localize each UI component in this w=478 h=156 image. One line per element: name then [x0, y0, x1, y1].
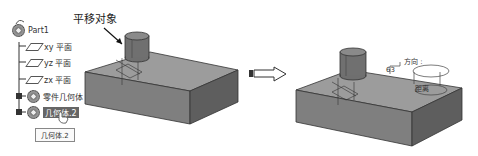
box-solid — [85, 52, 238, 124]
tooltip: 几何体.2 — [35, 128, 75, 142]
plane-icon — [25, 59, 44, 67]
plane-icon — [25, 43, 44, 51]
tree-item-label: xy 平面 — [44, 41, 72, 52]
tree-item-label: 零件几何体 — [43, 91, 83, 102]
box-solid — [296, 70, 462, 146]
tree-node-part-body[interactable]: 零件几何体 — [27, 90, 83, 103]
callout-arrow-icon — [104, 28, 122, 44]
part-gear-icon — [12, 24, 25, 37]
left-model-viewport — [80, 0, 240, 156]
tree-node-zx-plane[interactable]: zx 平面 — [28, 74, 71, 85]
direction-label: 方向 : — [404, 56, 423, 66]
specification-tree: Part1 xy 平面 yz 平面 zx 平面 零件几何体 几何体.2 几何体.… — [0, 0, 80, 156]
tree-node-part1[interactable]: Part1 — [12, 24, 49, 37]
hand-cursor-icon — [56, 111, 70, 125]
dimension-value: 63 — [386, 66, 395, 74]
tree-root-label: Part1 — [28, 26, 49, 35]
right-model-viewport — [290, 0, 478, 156]
body-gear-icon — [27, 106, 40, 119]
body-gear-icon — [27, 90, 40, 103]
distance-label: 距离 — [415, 83, 429, 93]
tree-node-body-2[interactable]: 几何体.2 — [27, 106, 79, 119]
tree-node-yz-plane[interactable]: yz 平面 — [28, 57, 71, 68]
cylinder-solid — [340, 48, 366, 80]
transition-arrow-icon — [248, 66, 290, 82]
plane-icon — [25, 76, 44, 84]
cylinder-solid — [125, 32, 149, 62]
tree-item-label: zx 平面 — [44, 74, 71, 85]
tree-item-label: yz 平面 — [44, 57, 71, 68]
tree-node-xy-plane[interactable]: xy 平面 — [28, 41, 72, 52]
